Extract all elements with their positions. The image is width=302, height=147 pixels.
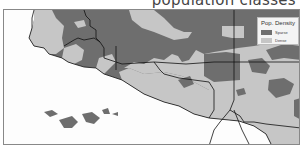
density-map [4,10,300,145]
legend-title: Pop. Density [261,20,295,27]
island [82,112,100,124]
dense-area [222,26,244,38]
sparse-area [204,52,240,82]
island [44,110,58,117]
island [59,116,78,128]
legend-label: Dense [275,38,287,43]
map-legend: Pop. Density Sparse Dense [257,17,299,45]
legend-label: Sparse [275,30,288,35]
map-title: population classes [0,0,296,9]
dense-swatch [261,38,272,43]
sparse-swatch [261,30,272,35]
legend-item-sparse: Sparse [261,29,295,35]
map-frame[interactable]: Pop. Density Sparse Dense [3,9,300,145]
island [102,108,110,114]
legend-item-dense: Dense [261,37,295,43]
island [112,112,118,116]
